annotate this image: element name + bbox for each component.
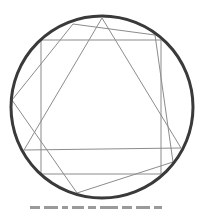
geometry-figure	[0, 0, 204, 210]
caption-glyph-fragment	[30, 206, 40, 209]
caption-cut-off	[30, 206, 180, 210]
caption-glyph-fragment	[100, 206, 118, 209]
caption-glyph-fragment	[88, 206, 96, 209]
caption-glyph-fragment	[122, 206, 132, 209]
caption-glyph-fragment	[72, 206, 84, 209]
caption-glyph-fragment	[154, 206, 162, 209]
caption-glyph-fragment	[44, 206, 58, 209]
caption-glyph-fragment	[136, 206, 150, 209]
caption-glyph-fragment	[62, 206, 68, 209]
background	[0, 0, 204, 210]
